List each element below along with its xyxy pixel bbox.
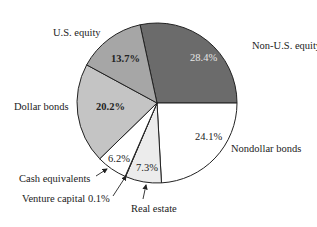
slice-percent-label: 6.2% [108,153,130,164]
slice-percent-label: 7.3% [136,162,158,173]
slice-percent-label: 13.7% [111,53,140,64]
slice-category-label: Non-U.S. equity [252,40,317,51]
slice-category-label: Cash equivalents [19,173,90,184]
pie-chart: 28.4%24.1%7.3%6.2%20.2%13.7% Non-U.S. eq… [0,0,317,227]
slice-category-label: Venture capital 0.1% [22,193,110,204]
slice-category-label: Nondollar bonds [231,143,301,154]
pie-slice-nondollar-bonds [157,103,237,183]
annotation-arrow [96,169,107,176]
slice-percent-label: 28.4% [190,52,217,63]
slice-percent-label: 20.2% [96,101,125,112]
annotation-arrow [143,185,146,199]
slice-category-label: Real estate [131,203,177,214]
slice-category-label: U.S. equity [53,27,101,38]
slice-percent-label: 24.1% [195,131,222,142]
annotation-arrow [113,176,126,196]
slice-category-label: Dollar bonds [14,101,69,112]
